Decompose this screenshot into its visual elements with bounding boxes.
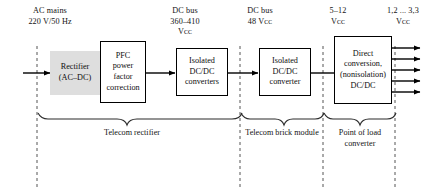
block-line-2: (AC–DC) <box>59 73 91 84</box>
bus-label-line1: 5–12 <box>307 6 369 17</box>
block-line-1: Rectifier <box>59 62 91 73</box>
block-line-1: Direct <box>340 49 386 60</box>
block-line-3: converters <box>185 77 219 88</box>
block-line-2: DC/DC <box>185 67 219 78</box>
block-rectifier: Rectifier (AC–DC) <box>50 51 100 95</box>
block-line-3: (nonisolation) <box>340 70 386 81</box>
block-isolated-dcdc-converters: Isolated DC/DC converters <box>176 48 228 96</box>
bus-label-line2: Vᴄᴄ <box>372 17 434 28</box>
block-line-2: power <box>106 61 139 72</box>
bus-label-line1: DC bus <box>150 6 220 17</box>
bus-label-dc-bus-48: DC bus 48 Vᴄᴄ <box>225 6 295 27</box>
group-label-line-2: converter <box>326 139 394 150</box>
group-brace-group <box>38 113 396 125</box>
block-line-2: conversion, <box>340 59 386 70</box>
bus-label-dc-bus-hv: DC bus 360–410 Vᴄᴄ <box>150 6 220 38</box>
block-line-2: DC/DC <box>270 67 301 78</box>
bus-label-ac-mains: AC mains 220 V/50 Hz <box>8 6 92 27</box>
block-line-3: converter <box>270 77 301 88</box>
bus-label-line2: 48 Vᴄᴄ <box>225 17 295 28</box>
group-label-line-1: Telecom rectifier <box>80 128 184 139</box>
brace-telecom-rectifier <box>38 113 242 125</box>
block-pfc: PFC power factor correction <box>100 41 146 103</box>
bus-label-line1: AC mains <box>8 6 92 17</box>
bus-label-line1: DC bus <box>225 6 295 17</box>
block-direct-conversion: Direct conversion, (nonisolation) DC/DC <box>334 36 392 104</box>
bus-label-line1: 1,2 ... 3,3 <box>372 6 434 17</box>
bus-label-line2: 220 V/50 Hz <box>8 17 92 28</box>
brace-point-of-load <box>324 113 396 125</box>
bus-label-line2: Vᴄᴄ <box>307 17 369 28</box>
block-line-4: correction <box>106 83 139 94</box>
group-label-telecom-brick-module: Telecom brick module <box>240 128 324 139</box>
block-line-1: PFC <box>106 51 139 62</box>
bus-label-rail-1v2-3v3: 1,2 ... 3,3 Vᴄᴄ <box>372 6 434 27</box>
bus-label-rail-5-12: 5–12 Vᴄᴄ <box>307 6 369 27</box>
block-line-4: DC/DC <box>340 81 386 92</box>
block-diagram: AC mains 220 V/50 Hz DC bus 360–410 Vᴄᴄ … <box>0 0 434 194</box>
bus-label-line3: Vᴄᴄ <box>150 27 220 38</box>
block-isolated-dcdc-converter: Isolated DC/DC converter <box>259 48 311 96</box>
bus-label-line2: 360–410 <box>150 17 220 28</box>
group-label-line-1: Point of load <box>326 128 394 139</box>
group-label-line-1: Telecom brick module <box>240 128 324 139</box>
output-arrow-group <box>392 48 420 92</box>
block-line-1: Isolated <box>185 56 219 67</box>
group-label-telecom-rectifier: Telecom rectifier <box>80 128 184 139</box>
group-label-point-of-load-converter: Point of load converter <box>326 128 394 149</box>
block-line-3: factor <box>106 72 139 83</box>
block-line-1: Isolated <box>270 56 301 67</box>
brace-telecom-brick-module <box>241 113 324 125</box>
